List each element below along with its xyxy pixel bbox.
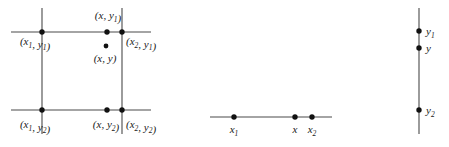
label-y: y bbox=[425, 42, 431, 54]
vertical-y-axis-line: y1yy2 bbox=[416, 8, 435, 134]
point-y1 bbox=[416, 28, 421, 33]
point-x1-y2 bbox=[39, 107, 44, 112]
label-x1-y1: (x1, y1) bbox=[20, 35, 50, 53]
point-x1 bbox=[231, 114, 236, 119]
label-x2-y1: (x2, y1) bbox=[126, 35, 156, 53]
point-x2-y1 bbox=[119, 29, 124, 34]
point-x2-y2 bbox=[119, 107, 124, 112]
label-y2: y2 bbox=[425, 104, 435, 119]
bilinear-interpolation-figure: (x, y1)(x1, y1)(x2, y1)(x, y)(x1, y2)(x,… bbox=[0, 0, 449, 147]
point-x-y1 bbox=[104, 29, 109, 34]
horizontal-x-axis-line: x1xx2 bbox=[210, 114, 332, 137]
point-x2 bbox=[309, 114, 314, 119]
point-y bbox=[416, 45, 421, 50]
label-x-y2: (x, y2) bbox=[93, 118, 120, 134]
label-x1: x1 bbox=[229, 123, 239, 138]
point-x1-y1 bbox=[39, 29, 44, 34]
figure-groups: (x, y1)(x1, y1)(x2, y1)(x, y)(x1, y2)(x,… bbox=[11, 8, 435, 138]
label-x-y1: (x, y1) bbox=[95, 9, 122, 25]
diagram-canvas: (x, y1)(x1, y1)(x2, y1)(x, y)(x1, y2)(x,… bbox=[0, 0, 449, 147]
point-x bbox=[292, 114, 297, 119]
label-y1: y1 bbox=[425, 25, 435, 40]
point-y2 bbox=[416, 107, 421, 112]
point-x-y bbox=[104, 44, 109, 49]
label-x: x bbox=[292, 123, 298, 135]
label-x2-y2: (x2, y2) bbox=[126, 118, 156, 136]
label-x1-y2: (x1, y2) bbox=[20, 118, 50, 136]
two-dimensional-grid-cell: (x, y1)(x1, y1)(x2, y1)(x, y)(x1, y2)(x,… bbox=[11, 8, 156, 136]
point-x-y2 bbox=[104, 107, 109, 112]
label-x2: x2 bbox=[307, 123, 317, 138]
label-x-y: (x, y) bbox=[94, 52, 117, 65]
